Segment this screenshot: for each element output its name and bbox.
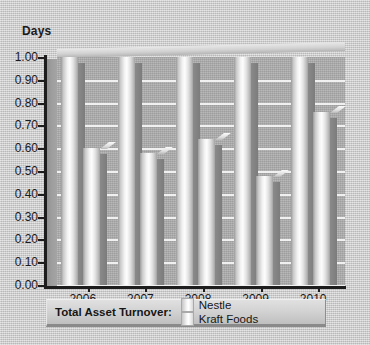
y-tick-mark <box>38 148 45 150</box>
plot-area <box>57 57 345 285</box>
y-tick-mark <box>38 80 45 82</box>
bar-side-face <box>157 159 164 285</box>
bar-nestle-2009 <box>234 57 251 285</box>
y-tick-label: 0.70 <box>0 118 38 132</box>
bar-nestle-2006 <box>61 57 78 285</box>
plot-top-cap <box>57 42 345 58</box>
legend-entries: NestleKraft Foods <box>172 298 258 326</box>
bar-side-face <box>330 118 337 285</box>
y-tick-label: 0.80 <box>0 96 38 110</box>
legend-entry-nestle[interactable]: Nestle <box>181 298 258 312</box>
legend-title: Total Asset Turnover: <box>55 306 172 318</box>
bar-front-face <box>198 139 215 285</box>
y-tick-label: 0.60 <box>0 141 38 155</box>
y-tick-mark <box>38 239 45 241</box>
chart-legend: Total Asset Turnover: NestleKraft Foods <box>46 299 326 327</box>
y-tick-label: 0.50 <box>0 164 38 178</box>
bar-front-face <box>61 57 78 285</box>
y-tick-mark <box>38 125 45 127</box>
y-tick-label: 0.30 <box>0 210 38 224</box>
bar-kraft-foods-2006 <box>83 148 100 285</box>
bar-front-face <box>118 57 135 285</box>
legend-label: Nestle <box>199 299 232 311</box>
y-tick-label: 1.00 <box>0 50 38 64</box>
bar-front-face <box>256 176 273 285</box>
bar-top-cap <box>330 106 346 113</box>
legend-swatch-icon <box>181 312 194 326</box>
bar-kraft-foods-2007 <box>140 153 157 285</box>
y-tick-mark <box>38 57 45 59</box>
bar-front-face <box>313 112 330 285</box>
bar-nestle-2010 <box>291 57 308 285</box>
bar-top-cap <box>215 133 231 140</box>
y-tick-mark <box>38 103 45 105</box>
bar-front-face <box>83 148 100 285</box>
y-tick-label: 0.10 <box>0 255 38 269</box>
y-tick-label: 0.20 <box>0 232 38 246</box>
y-tick-mark <box>38 194 45 196</box>
bar-front-face <box>176 57 193 285</box>
y-tick-mark <box>38 217 45 219</box>
legend-swatch-icon <box>181 298 194 312</box>
y-tick-label: 0.90 <box>0 73 38 87</box>
y-axis-title: Days <box>22 24 52 38</box>
bar-front-face <box>234 57 251 285</box>
legend-entry-kraft-foods[interactable]: Kraft Foods <box>181 312 258 326</box>
bar-front-face <box>291 57 308 285</box>
y-tick-mark <box>38 262 45 264</box>
bar-side-face <box>273 182 280 285</box>
legend-label: Kraft Foods <box>199 313 258 325</box>
y-tick-label: 0.00 <box>0 278 38 292</box>
bar-front-face <box>140 153 157 285</box>
y-tick-mark <box>38 171 45 173</box>
bar-side-face <box>215 145 222 285</box>
bar-nestle-2007 <box>118 57 135 285</box>
chart-container: Days 1.000.900.800.700.600.500.400.300.2… <box>0 0 370 345</box>
y-tick-label: 0.40 <box>0 187 38 201</box>
bar-kraft-foods-2009 <box>256 176 273 285</box>
bar-side-face <box>100 154 107 285</box>
bar-kraft-foods-2008 <box>198 139 215 285</box>
bar-kraft-foods-2010 <box>313 112 330 285</box>
bar-nestle-2008 <box>176 57 193 285</box>
